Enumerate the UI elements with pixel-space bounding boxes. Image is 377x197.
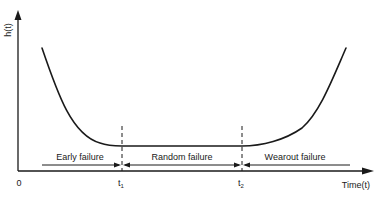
random-failure-label: Random failure — [151, 152, 212, 162]
t1-label-sub: 1 — [121, 183, 125, 189]
early-failure-label: Early failure — [56, 152, 104, 162]
y-axis-arrowhead — [15, 10, 22, 20]
hazard-rate-curve — [42, 48, 346, 146]
x-axis-arrowhead — [362, 168, 374, 175]
early-failure-arrowhead — [114, 163, 121, 168]
wearout-failure-arrowhead — [243, 163, 250, 168]
t1-label: t1 — [118, 178, 125, 189]
t2-label-sub: 2 — [241, 183, 245, 189]
random-failure-arrowhead-right — [234, 163, 241, 168]
random-failure-arrowhead-left — [123, 163, 130, 168]
origin-label: 0 — [16, 178, 21, 188]
bathtub-diagram: h(t) 0 Time(t) Early failure Random fail… — [0, 0, 377, 197]
t2-label: t2 — [238, 178, 245, 189]
x-axis-label: Time(t) — [342, 180, 370, 190]
y-axis-label: h(t) — [3, 23, 13, 37]
wearout-failure-label: Wearout failure — [265, 152, 326, 162]
